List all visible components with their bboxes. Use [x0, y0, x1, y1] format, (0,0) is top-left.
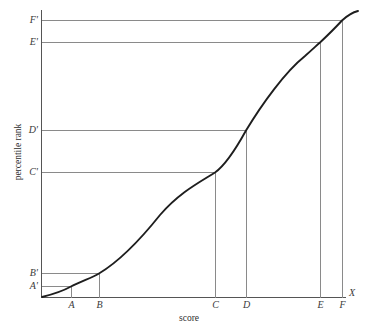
x-axis-title: score: [179, 313, 199, 323]
ogive-chart: A' B' C' D' E' F' A B C D E F X score pe…: [0, 0, 371, 333]
y-tick-label-a-prime: A': [29, 280, 39, 291]
y-tick-label-e-prime: E': [29, 36, 39, 47]
chart-canvas: A' B' C' D' E' F' A B C D E F X score pe…: [0, 0, 371, 333]
x-axis-end-label: X: [348, 287, 356, 298]
x-tick-label-b: B: [96, 299, 102, 310]
x-tick-label-f: F: [338, 299, 346, 310]
y-axis-title: percentile rank: [13, 123, 23, 180]
x-tick-label-d: D: [242, 299, 251, 310]
y-tick-label-f-prime: F': [29, 14, 39, 25]
y-tick-label-c-prime: C': [29, 166, 39, 177]
x-tick-label-e: E: [316, 299, 323, 310]
y-tick-label-b-prime: B': [30, 267, 39, 278]
y-tick-label-d-prime: D': [28, 124, 39, 135]
x-tick-label-c: C: [212, 299, 219, 310]
x-tick-label-a: A: [67, 299, 75, 310]
ogive-curve-path: [42, 11, 358, 297]
